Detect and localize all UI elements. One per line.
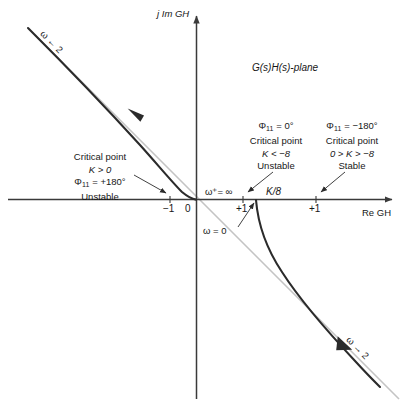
omega-infinity-label: ω⁺= ∞ [205,186,232,198]
annotation-left-phi-value: = +180° [92,176,125,187]
annotation-middle-phi-value: = 0° [276,120,293,131]
annotation-right-stability: Stable [300,160,404,173]
tick-label-plus-one-right-text: +1 [309,203,320,214]
annotation-right-phi-subscript: 11 [334,125,342,132]
axis-imaginary-label: j Im GH [157,8,189,20]
tick-label-k-over-8: K/8 [266,186,281,198]
annotation-left-critical-point: Critical point K > 0 Φ11 = +180° Unstabl… [40,151,160,204]
axis-real-label: Re GH [362,207,391,219]
tick-label-origin-text: 0 [185,203,191,214]
axis-imaginary-label-text: j Im GH [157,8,189,19]
omega-infinity-text: ω⁺= ∞ [205,186,232,197]
annotation-middle-phi-subscript: 11 [266,125,274,132]
annotation-left-title: Critical point [40,151,160,164]
axis-real-label-text: Re GH [362,207,391,218]
upper-branch-arrowhead [128,108,145,123]
annotation-right-title: Critical point [300,135,404,148]
annotation-right-phi-value: = −180° [344,120,377,131]
annotation-right-phi-symbol: Φ [326,120,334,131]
omega-zero-label: ω = 0 [203,225,227,237]
annotation-left-phi-symbol: Φ [74,176,82,187]
leader-right-critical [321,172,345,192]
tick-label-origin: 0 [185,203,191,215]
tick-label-plus-one-left: +1 [236,203,247,215]
annotation-middle-phi-symbol: Φ [258,120,266,131]
omega-zero-text: ω = 0 [203,225,227,236]
plane-label-text: G(s)H(s)-plane [252,62,318,73]
tick-label-minus-one: −1 [163,203,174,215]
tick-label-plus-one-right: +1 [309,203,320,215]
annotation-right-phi: Φ11 = −180° [300,120,404,135]
annotation-left-stability: Unstable [40,191,160,204]
nyquist-plot-figure: j Im GH Re GH G(s)H(s)-plane −1 0 +1 +1 … [0,0,409,407]
tick-label-minus-one-text: −1 [163,203,174,214]
annotation-right-critical-point: Φ11 = −180° Critical point 0 > K > −8 St… [300,120,404,173]
plane-label: G(s)H(s)-plane [252,62,318,74]
annotation-left-phi-subscript: 11 [82,181,90,188]
annotation-left-phi: Φ11 = +180° [40,176,160,191]
annotation-right-gain: 0 > K > −8 [300,148,404,161]
tick-label-k-over-8-text: K/8 [266,186,281,197]
annotation-left-gain: K > 0 [40,164,160,177]
tick-label-plus-one-left-text: +1 [236,203,247,214]
